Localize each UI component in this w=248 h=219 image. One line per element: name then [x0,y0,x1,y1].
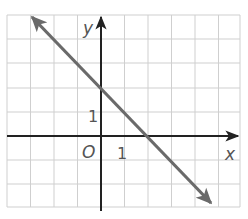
coordinate-plane: y x O 1 1 [0,0,248,219]
y-tick-label-1: 1 [88,107,98,126]
plotted-line [32,17,211,203]
y-axis-label: y [82,18,94,38]
origin-label: O [82,142,95,162]
x-axis-label: x [224,144,236,164]
x-tick-label-1: 1 [117,144,127,163]
